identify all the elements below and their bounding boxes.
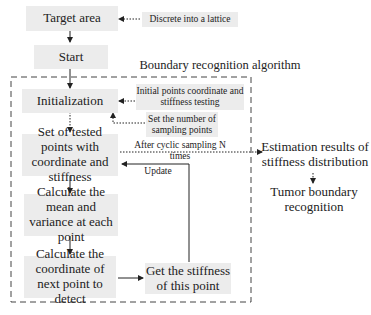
node-tested-points: Set of tested points with coordinate and… <box>22 134 118 176</box>
node-tumor-boundary: Tumor boundary recognition <box>266 185 362 215</box>
node-target-area: Target area <box>26 6 118 31</box>
node-mean-variance: Calculate the mean and variance at each … <box>24 194 118 236</box>
group-title: Boundary recognition algorithm <box>120 58 320 72</box>
edge-label-after-sampling: After cyclic sampling N times <box>124 140 236 162</box>
node-initialization: Initialization <box>22 89 118 113</box>
node-next-point: Calculate the coordinate of next point t… <box>24 256 116 298</box>
edge-label-update: Update <box>138 166 178 177</box>
node-estimation: Estimation results of stiffness distribu… <box>260 140 370 170</box>
node-start: Start <box>34 45 108 69</box>
note-set-number: Set the number of sampling points <box>146 112 218 137</box>
note-discrete: Discrete into a lattice <box>142 12 238 27</box>
node-get-stiffness: Get the stiffness of this point <box>145 263 231 294</box>
note-initial-points: Initial points coordinate and stiffness … <box>136 84 244 110</box>
